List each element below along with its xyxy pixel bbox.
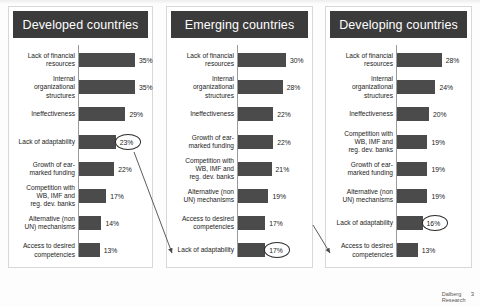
bar-value-label: 29% (129, 111, 143, 118)
category-label: Alternative (non UN) mechanisms (328, 188, 393, 204)
bar-row: Competition with WB, IMF and reg. dev. b… (167, 156, 312, 182)
bar (238, 53, 286, 67)
bar-row: Ineffectiveness20% (326, 101, 471, 127)
bar-row: Internal organizational structures28% (167, 74, 312, 100)
bar-value-label: 17% (110, 193, 124, 200)
category-label: Internal organizational structures (169, 75, 234, 100)
bar-value-label: 13% (104, 247, 118, 254)
bar-value-label: 19% (431, 193, 445, 200)
category-label: Growth of ear- marked funding (328, 161, 393, 177)
category-label: Internal organizational structures (11, 75, 75, 100)
bar-value-label: 17% (269, 247, 283, 254)
slide-canvas: Developed countries Lack of financial re… (0, 0, 480, 307)
bar-value-label: 16% (427, 220, 441, 227)
category-label: Lack of adaptability (328, 219, 393, 227)
bar (238, 107, 273, 121)
bar-value-label: 19% (431, 165, 445, 172)
bar-row: Access to desired competencies13% (326, 237, 471, 263)
bar (238, 80, 283, 94)
bar-value-label: 28% (446, 57, 460, 64)
bar (79, 80, 135, 94)
bar (238, 243, 265, 257)
bar-value-label: 24% (439, 84, 453, 91)
bar-row: Alternative (non UN) mechanisms14% (9, 210, 152, 236)
bar (397, 162, 427, 176)
bar-chart-developing: Lack of financial resources28%Internal o… (326, 43, 471, 261)
category-label: Ineffectiveness (11, 110, 75, 118)
bar-row: Alternative (non UN) mechanisms19% (167, 183, 312, 209)
bar (79, 53, 135, 67)
category-label: Lack of financial resources (328, 52, 393, 68)
bar (397, 135, 427, 149)
bar (397, 243, 418, 257)
panel-title-emerging: Emerging countries (171, 11, 308, 38)
bar-row: Lack of financial resources28% (326, 47, 471, 73)
bar-row: Access to desired competencies13% (9, 237, 152, 263)
chart-panel-emerging: Emerging countries Lack of financial res… (166, 6, 313, 268)
category-label: Ineffectiveness (169, 110, 234, 118)
category-label: Competition with WB, IMF and reg. dev. b… (11, 184, 75, 209)
bar (238, 162, 272, 176)
footer-logo-line1: Dalberg (442, 291, 462, 297)
bar-row: Competition with WB, IMF and reg. dev. b… (9, 183, 152, 209)
bar-chart-emerging: Lack of financial resources30%Internal o… (167, 43, 312, 261)
dalberg-research-logo: DalbergResearch (442, 291, 466, 303)
bar-row: Access to desired competencies17% (167, 210, 312, 236)
bar-row: Growth of ear- marked funding22% (9, 156, 152, 182)
bar-value-label: 35% (139, 84, 153, 91)
bar-row: Ineffectiveness22% (167, 101, 312, 127)
bar-row: Alternative (non UN) mechanisms19% (326, 183, 471, 209)
bar-row: Lack of adaptability17% (167, 237, 312, 263)
bar (79, 162, 114, 176)
panel-title-developing: Developing countries (330, 11, 467, 38)
bar-row: Lack of financial resources30% (167, 47, 312, 73)
panel-title-developed: Developed countries (13, 11, 148, 38)
chart-panel-developing: Developing countries Lack of financial r… (325, 6, 472, 268)
bar-chart-developed: Lack of financial resources35%Internal o… (9, 43, 152, 261)
bar-value-label: 28% (287, 84, 301, 91)
category-label: Alternative (non UN) mechanisms (11, 215, 75, 231)
bar (397, 107, 429, 121)
bar-value-label: 14% (105, 220, 119, 227)
bar (79, 107, 125, 121)
bar (397, 216, 423, 230)
slide-footer: DalbergResearch 3 (442, 291, 474, 303)
bar-row: Growth of ear- marked funding22% (167, 129, 312, 155)
bar (79, 243, 100, 257)
category-label: Lack of adaptability (11, 137, 75, 145)
bar-value-label: 21% (276, 165, 290, 172)
category-label: Growth of ear- marked funding (169, 133, 234, 149)
category-label: Access to desired competencies (169, 215, 234, 231)
category-label: Competition with WB, IMF and reg. dev. b… (169, 156, 234, 181)
bar (397, 80, 435, 94)
category-label: Competition with WB, IMF and reg. dev. b… (328, 129, 393, 154)
bar-value-label: 13% (422, 247, 436, 254)
category-label: Lack of adaptability (169, 246, 234, 254)
bar-row: Competition with WB, IMF and reg. dev. b… (326, 129, 471, 155)
bar (79, 189, 106, 203)
bar-value-label: 35% (139, 57, 153, 64)
category-label: Growth of ear- marked funding (11, 161, 75, 177)
bar (238, 189, 268, 203)
page-number: 3 (471, 291, 474, 297)
bar-value-label: 20% (433, 111, 447, 118)
scan-edge (0, 0, 480, 4)
bar (79, 216, 101, 230)
bar-value-label: 19% (272, 193, 286, 200)
chart-panel-developed: Developed countries Lack of financial re… (8, 6, 153, 268)
bar-value-label: 23% (120, 138, 134, 145)
bar (397, 189, 427, 203)
category-label: Access to desired competencies (328, 242, 393, 258)
category-label: Lack of financial resources (11, 52, 75, 68)
bar-value-label: 22% (118, 165, 132, 172)
bar (238, 135, 273, 149)
bar (397, 53, 442, 67)
bar (238, 216, 265, 230)
bar-value-label: 17% (269, 220, 283, 227)
bar-row: Ineffectiveness29% (9, 101, 152, 127)
bar-row: Growth of ear- marked funding19% (326, 156, 471, 182)
bar-value-label: 30% (290, 57, 304, 64)
bar-row: Internal organizational structures35% (9, 74, 152, 100)
category-label: Lack of financial resources (169, 52, 234, 68)
bar-row: Lack of adaptability23% (9, 129, 152, 155)
